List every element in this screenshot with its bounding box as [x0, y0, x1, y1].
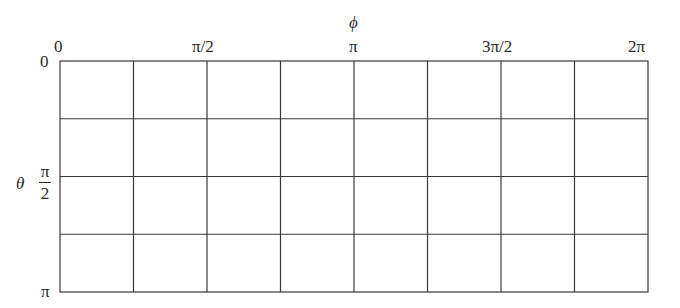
x-tick-3pi-half: 3π/2 — [482, 38, 512, 55]
y-tick-pi-half: π 2 — [39, 163, 51, 202]
y-tick-pi: π — [41, 283, 50, 300]
x-tick-2pi: 2π — [628, 38, 645, 55]
y-tick-pi-half-numerator: π — [41, 163, 50, 180]
y-tick-pi-half-denominator: 2 — [41, 185, 50, 202]
x-axis-title: ϕ — [349, 14, 358, 31]
x-tick-pi: π — [349, 38, 358, 55]
grid-diagram — [0, 0, 680, 308]
grid-lines — [60, 61, 648, 292]
fraction-bar — [39, 182, 51, 183]
y-tick-0: 0 — [40, 53, 49, 70]
x-tick-0: 0 — [54, 38, 63, 55]
x-tick-pi-half: π/2 — [192, 38, 214, 55]
y-axis-title: θ — [16, 175, 24, 192]
